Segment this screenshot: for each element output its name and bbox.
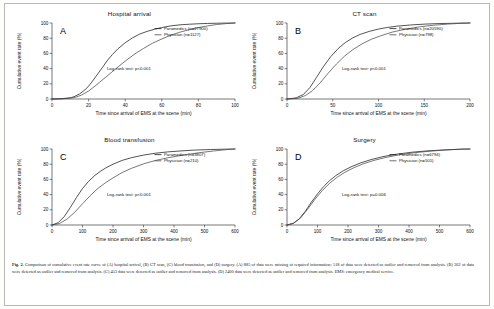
svg-text:20: 20 — [86, 103, 92, 108]
svg-text:B: B — [295, 26, 301, 36]
figure-caption-body: Comparison of cumulative event rate curv… — [12, 262, 474, 274]
figure-caption: Fig. 2. Comparison of cumulative event r… — [12, 262, 474, 298]
svg-text:0: 0 — [286, 103, 289, 108]
figure-caption-lead: Fig. 2. — [12, 262, 24, 267]
svg-text:80: 80 — [278, 162, 284, 167]
svg-text:Log-rank test: p<0.001: Log-rank test: p<0.001 — [342, 66, 387, 71]
svg-text:100: 100 — [231, 103, 239, 108]
panel-grid: Hospital arrival 02040608010002040608010… — [12, 8, 482, 260]
svg-text:0: 0 — [51, 229, 54, 234]
svg-text:Cumulative event rate (%): Cumulative event rate (%) — [17, 158, 22, 215]
svg-text:60: 60 — [278, 177, 284, 182]
svg-text:Paramedics (n=3807): Paramedics (n=3807) — [164, 152, 206, 157]
svg-text:80: 80 — [43, 162, 49, 167]
panel-c-title: Blood transfusion — [12, 136, 247, 143]
svg-text:100: 100 — [314, 229, 322, 234]
svg-text:0: 0 — [286, 229, 289, 234]
svg-text:100: 100 — [276, 21, 284, 26]
panel-b-title: CT scan — [247, 10, 482, 17]
svg-text:Time since arrival of EMS at t: Time since arrival of EMS at the scene (… — [330, 237, 426, 242]
svg-text:150: 150 — [420, 103, 428, 108]
panel-a-plot: 020406080100020406080100Time since arriv… — [12, 17, 247, 134]
svg-text:A: A — [60, 26, 66, 36]
svg-text:80: 80 — [278, 36, 284, 41]
svg-text:D: D — [295, 152, 302, 162]
svg-text:Log-rank test: p<0.001: Log-rank test: p<0.001 — [107, 66, 152, 71]
svg-text:500: 500 — [436, 229, 444, 234]
svg-text:0: 0 — [281, 97, 284, 102]
svg-text:200: 200 — [344, 229, 352, 234]
svg-text:Cumulative event rate (%): Cumulative event rate (%) — [17, 32, 22, 89]
svg-text:600: 600 — [466, 229, 474, 234]
svg-text:Physician (n=798): Physician (n=798) — [399, 32, 434, 37]
svg-text:Time since arrival of EMS at t: Time since arrival of EMS at the scene (… — [330, 111, 426, 116]
svg-text:Log-rank test: p<0.001: Log-rank test: p<0.001 — [107, 192, 152, 197]
svg-text:0: 0 — [46, 97, 49, 102]
svg-text:50: 50 — [330, 103, 336, 108]
figure-caption-text: Fig. 2. Comparison of cumulative event r… — [12, 262, 474, 275]
svg-text:300: 300 — [375, 229, 383, 234]
svg-text:Cumulative event rate (%): Cumulative event rate (%) — [252, 158, 257, 215]
figure-page: Hospital arrival 02040608010002040608010… — [0, 0, 494, 309]
svg-text:20: 20 — [43, 81, 49, 86]
panel-d-plot: 0204060801000100200300400500600Time sinc… — [247, 143, 482, 260]
svg-text:Paramedics (n=27900): Paramedics (n=27900) — [164, 26, 208, 31]
svg-text:Time since arrival of EMS at t: Time since arrival of EMS at the scene (… — [95, 237, 191, 242]
panel-a: Hospital arrival 02040608010002040608010… — [12, 8, 247, 134]
svg-text:Cumulative event rate (%): Cumulative event rate (%) — [252, 32, 257, 89]
svg-text:100: 100 — [79, 229, 87, 234]
svg-text:100: 100 — [41, 147, 49, 152]
panel-b-plot: 020406080100050100150200Time since arriv… — [247, 17, 482, 134]
svg-text:60: 60 — [278, 51, 284, 56]
panel-d: Surgery 0204060801000100200300400500600T… — [247, 134, 482, 260]
svg-text:Physician (n=1127): Physician (n=1127) — [164, 32, 201, 37]
svg-text:20: 20 — [278, 81, 284, 86]
svg-text:20: 20 — [278, 207, 284, 212]
svg-text:100: 100 — [41, 21, 49, 26]
svg-text:Paramedics (n=20590): Paramedics (n=20590) — [399, 26, 443, 31]
svg-text:80: 80 — [43, 36, 49, 41]
panel-b: CT scan 020406080100050100150200Time sin… — [247, 8, 482, 134]
svg-text:200: 200 — [466, 103, 474, 108]
svg-text:Time since arrival of EMS at t: Time since arrival of EMS at the scene (… — [95, 111, 191, 116]
svg-text:40: 40 — [43, 192, 49, 197]
svg-text:300: 300 — [140, 229, 148, 234]
svg-text:400: 400 — [405, 229, 413, 234]
svg-text:20: 20 — [43, 207, 49, 212]
svg-text:60: 60 — [159, 103, 165, 108]
svg-text:Physician (n=210): Physician (n=210) — [164, 158, 199, 163]
svg-text:Paramedics (n=6794): Paramedics (n=6794) — [399, 152, 441, 157]
panel-c-plot: 0204060801000100200300400500600Time sinc… — [12, 143, 247, 260]
svg-text:200: 200 — [109, 229, 117, 234]
svg-text:40: 40 — [278, 66, 284, 71]
panel-a-title: Hospital arrival — [12, 10, 247, 17]
svg-text:100: 100 — [276, 147, 284, 152]
svg-text:500: 500 — [201, 229, 209, 234]
svg-text:C: C — [60, 152, 67, 162]
svg-text:600: 600 — [231, 229, 239, 234]
panel-d-title: Surgery — [247, 136, 482, 143]
svg-text:40: 40 — [43, 66, 49, 71]
svg-text:400: 400 — [170, 229, 178, 234]
svg-text:40: 40 — [278, 192, 284, 197]
svg-text:40: 40 — [123, 103, 129, 108]
svg-text:Physician (n=505): Physician (n=505) — [399, 158, 434, 163]
svg-text:100: 100 — [375, 103, 383, 108]
svg-text:60: 60 — [43, 177, 49, 182]
svg-text:60: 60 — [43, 51, 49, 56]
svg-text:Log-rank test: p=0.006: Log-rank test: p=0.006 — [342, 192, 387, 197]
svg-text:0: 0 — [46, 223, 49, 228]
svg-text:0: 0 — [281, 223, 284, 228]
figure-area: Hospital arrival 02040608010002040608010… — [12, 8, 482, 260]
svg-text:0: 0 — [51, 103, 54, 108]
panel-c: Blood transfusion 0204060801000100200300… — [12, 134, 247, 260]
svg-text:80: 80 — [196, 103, 202, 108]
